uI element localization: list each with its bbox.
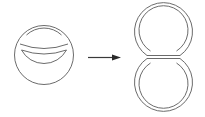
target-shape — [135, 3, 193, 112]
target-top-inner — [139, 6, 188, 51]
target-bottom-inner — [139, 63, 188, 108]
target-bottom-outer — [135, 59, 193, 112]
target-top-outer — [135, 3, 193, 56]
arrow-right-icon — [88, 55, 121, 61]
source-inner-top-arc — [27, 28, 62, 35]
source-inner-bowl — [22, 50, 67, 64]
diagram-canvas — [0, 0, 205, 117]
source-band-top — [20, 44, 68, 49]
source-shape — [15, 26, 74, 85]
source-outer-ring — [15, 26, 74, 85]
